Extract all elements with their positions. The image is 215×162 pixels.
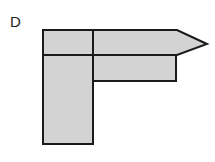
shape-diagram: [0, 0, 215, 162]
vertical-bar: [43, 55, 93, 144]
arrow-head-bar: [93, 30, 207, 55]
lower-horizontal-bar: [93, 55, 176, 81]
top-left-square: [43, 30, 93, 55]
